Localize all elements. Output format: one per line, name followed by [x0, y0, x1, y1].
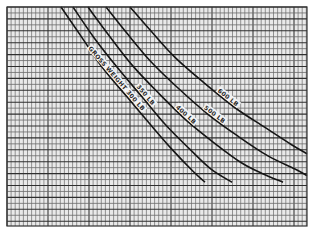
weight-curves-chart: GROSS WEIGHT 300 LB350 LB400 LB500 LB600…: [0, 0, 309, 246]
